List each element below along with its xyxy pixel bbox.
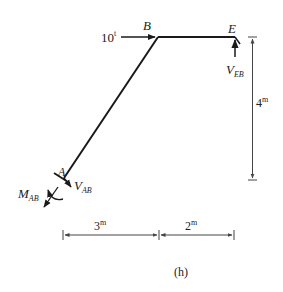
load-label: 10t [101, 29, 117, 45]
axial-arrow-icon [44, 187, 58, 207]
m-ab-label: MAB [17, 186, 39, 203]
v-eb-label: VEB [226, 62, 244, 79]
node-label-e: E [227, 21, 236, 36]
v-ab-label: VAB [74, 178, 92, 195]
frame-diagram: 10t B E A VEB VAB MAB 4m 3m [0, 0, 283, 292]
v-ab-arrow-icon [64, 178, 71, 187]
svg-text:2m: 2m [185, 218, 198, 233]
height-dimension: 4m [248, 37, 269, 180]
figure-caption: (h) [174, 265, 188, 279]
svg-text:3m: 3m [94, 218, 107, 233]
span-dimension: 3m 2m [63, 218, 234, 240]
svg-text:4m: 4m [256, 95, 269, 110]
node-label-b: B [143, 18, 151, 33]
member-AB [64, 37, 158, 178]
